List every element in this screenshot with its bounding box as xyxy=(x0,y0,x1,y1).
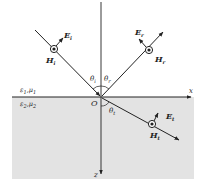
medium-2-region xyxy=(12,97,194,179)
x-axis-label: x xyxy=(189,87,193,95)
reflected-e-field-arrow xyxy=(139,39,146,47)
incident-e-label: Ei xyxy=(63,30,72,41)
z-axis-label: z xyxy=(93,171,98,179)
transmitted-h-field-icon xyxy=(148,120,155,127)
incident-e-field-arrow xyxy=(56,38,63,46)
reflected-e-label: Er xyxy=(134,27,144,38)
incident-angle-label: θi xyxy=(90,75,96,84)
medium-1-label: ε1,μ1 xyxy=(20,86,36,95)
reflected-h-field-icon xyxy=(145,46,152,53)
wave-reflection-diagram: x z O ε1,μ1 ε2,μ2 Ei Hi Er Hr θi xyxy=(0,0,200,189)
origin-label: O xyxy=(91,99,98,108)
reflected-h-label: Hr xyxy=(154,54,166,65)
reflected-angle-arc xyxy=(101,86,109,89)
incident-angle-arc xyxy=(93,86,101,89)
reflected-angle-label: θr xyxy=(104,75,111,84)
incident-h-field-icon xyxy=(50,45,57,52)
reflected-ray xyxy=(102,32,163,96)
incident-h-label: Hi xyxy=(45,55,56,66)
